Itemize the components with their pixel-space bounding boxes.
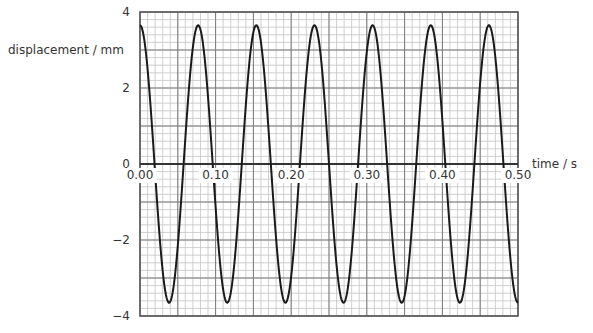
x-tick-label: 0.50: [505, 168, 532, 182]
y-tick-label: −4: [112, 309, 130, 323]
y-tick-label: 2: [122, 81, 130, 95]
x-axis-label: time / s: [532, 157, 577, 171]
y-tick-label: 4: [122, 5, 130, 19]
displacement-time-chart: 0.000.100.200.300.400.50 420−2−4 displac…: [0, 0, 593, 333]
y-tick-label: 0: [122, 157, 130, 171]
y-tick-label: −2: [112, 233, 130, 247]
x-tick-label: 0.10: [202, 168, 229, 182]
x-tick-label: 0.30: [353, 168, 380, 182]
x-tick-label: 0.20: [278, 168, 305, 182]
y-axis-label: displacement / mm: [8, 43, 124, 57]
x-tick-label: 0.40: [429, 168, 456, 182]
x-tick-label: 0.00: [127, 168, 154, 182]
